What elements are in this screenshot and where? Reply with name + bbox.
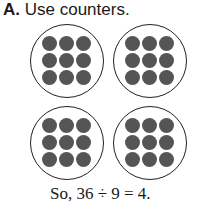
counter-icon [76, 36, 91, 51]
section-heading: A. Use counters. [3, 0, 130, 20]
counter-icon [76, 70, 91, 85]
counter-group-2 [113, 24, 187, 98]
counter-icon [59, 53, 74, 68]
counter-icon [142, 118, 157, 133]
counter-group-1 [30, 24, 104, 98]
counter-icon [159, 53, 174, 68]
counter-icon [76, 135, 91, 150]
counter-icon [59, 118, 74, 133]
division-result: So, 36 ÷ 9 = 4. [50, 184, 151, 204]
counter-icon [142, 70, 157, 85]
counter-icon [125, 152, 140, 167]
counter-icon [125, 118, 140, 133]
counter-icon [76, 118, 91, 133]
section-label: A. [3, 0, 20, 19]
counter-icon [59, 152, 74, 167]
counter-grid [125, 36, 174, 85]
counter-grid [42, 118, 91, 167]
counter-icon [42, 118, 57, 133]
counter-group-3 [30, 106, 104, 180]
counter-icon [59, 36, 74, 51]
counter-icon [125, 36, 140, 51]
counter-icon [76, 152, 91, 167]
counter-icon [142, 135, 157, 150]
section-instruction: Use counters. [25, 0, 130, 19]
counter-icon [125, 135, 140, 150]
counter-icon [59, 135, 74, 150]
counter-icon [159, 36, 174, 51]
counter-icon [42, 36, 57, 51]
counter-icon [142, 36, 157, 51]
counter-icon [42, 135, 57, 150]
counter-icon [125, 70, 140, 85]
counter-icon [76, 53, 91, 68]
counter-icon [142, 53, 157, 68]
counter-icon [125, 53, 140, 68]
counter-icon [159, 118, 174, 133]
counter-group-4 [113, 106, 187, 180]
counter-grid [42, 36, 91, 85]
counter-icon [159, 135, 174, 150]
counter-icon [42, 70, 57, 85]
counter-icon [42, 53, 57, 68]
counter-icon [159, 152, 174, 167]
counter-icon [142, 152, 157, 167]
counter-icon [59, 70, 74, 85]
counter-grid [125, 118, 174, 167]
counter-icon [159, 70, 174, 85]
counter-icon [42, 152, 57, 167]
